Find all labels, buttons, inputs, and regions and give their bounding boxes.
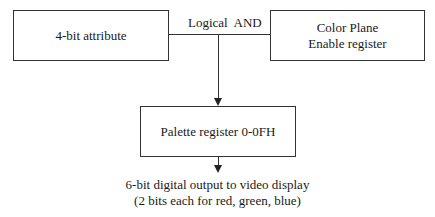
arrowhead-down-icon: [214, 98, 222, 106]
output-caption-line2: (2 bits each for red, green, blue): [0, 193, 435, 209]
color-plane-enable-box: Color Plane Enable register: [270, 10, 425, 61]
logical-and-label: Logical AND: [188, 15, 262, 31]
arrowhead-down-icon: [214, 165, 222, 173]
connector-left-horizontal: [169, 34, 270, 35]
output-caption-line1: 6-bit digital output to video display: [0, 177, 435, 193]
attribute-box: 4-bit attribute: [13, 10, 169, 61]
attribute-label: 4-bit attribute: [55, 28, 126, 44]
palette-register-box: Palette register 0-0FH: [140, 106, 296, 157]
palette-label: Palette register 0-0FH: [161, 124, 276, 140]
color-plane-label-line2: Enable register: [308, 36, 386, 52]
connector-and-to-palette: [218, 34, 219, 98]
color-plane-label-line1: Color Plane: [317, 20, 379, 36]
